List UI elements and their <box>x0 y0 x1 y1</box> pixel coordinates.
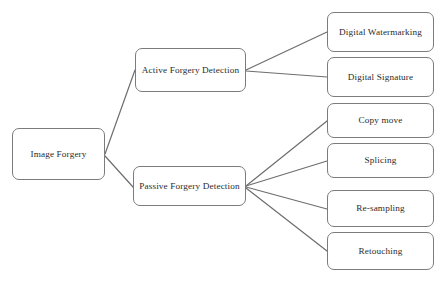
node-label: Re-sampling <box>356 203 405 213</box>
edge-passive-to-splicing <box>246 161 327 186</box>
node-splicing[interactable]: Splicing <box>327 143 434 178</box>
edge-passive-to-copymove <box>246 121 327 186</box>
node-label: Image Forgery <box>30 149 86 159</box>
node-active-forgery-detection[interactable]: Active Forgery Detection <box>135 48 246 92</box>
edge-root-to-active <box>105 70 135 154</box>
node-passive-forgery-detection[interactable]: Passive Forgery Detection <box>133 166 246 206</box>
node-label: Digital Signature <box>348 72 414 82</box>
node-digital-signature[interactable]: Digital Signature <box>327 57 434 97</box>
node-copy-move[interactable]: Copy move <box>327 103 434 138</box>
node-label: Splicing <box>365 155 397 165</box>
forgery-classification-diagram: Image Forgery Active Forgery Detection P… <box>0 0 440 284</box>
edge-root-to-passive <box>105 156 133 187</box>
node-label: Copy move <box>359 115 403 125</box>
node-label: Passive Forgery Detection <box>139 181 240 191</box>
node-label: Digital Watermarking <box>339 27 422 37</box>
node-digital-watermarking[interactable]: Digital Watermarking <box>327 12 434 52</box>
edge-active-to-signature <box>246 71 327 77</box>
node-re-sampling[interactable]: Re-sampling <box>327 190 434 227</box>
node-label: Active Forgery Detection <box>142 65 239 75</box>
node-label: Retouching <box>359 246 403 256</box>
node-image-forgery[interactable]: Image Forgery <box>12 128 105 180</box>
edge-active-to-watermarking <box>246 32 327 70</box>
node-retouching[interactable]: Retouching <box>327 232 434 270</box>
